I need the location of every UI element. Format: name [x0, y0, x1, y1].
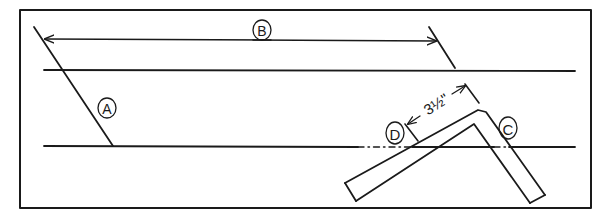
label-b: B	[253, 20, 271, 40]
dimension-3-5-arrow-right	[452, 86, 465, 94]
angle-iron-right-end	[530, 195, 545, 203]
svg-text:C: C	[503, 121, 514, 138]
dimension-b-arrow-left	[45, 39, 271, 40]
dimension-3-5-arrow-left	[408, 116, 420, 124]
lower-parallel-line-left	[44, 146, 358, 147]
slanted-line-b-end	[429, 27, 455, 68]
dimension-3-5-label: 3½"	[420, 90, 451, 119]
label-d: D	[386, 122, 404, 144]
dimension-b-arrow	[253, 40, 436, 41]
svg-text:B: B	[257, 23, 266, 39]
upper-parallel-line	[44, 70, 575, 71]
slanted-line-a	[34, 27, 113, 146]
diagram-canvas: 3½" A B C D	[0, 0, 607, 223]
svg-text:A: A	[102, 101, 112, 117]
label-a: A	[98, 98, 116, 118]
svg-text:D: D	[390, 126, 401, 143]
dimension-top-extension	[465, 84, 479, 103]
label-c: C	[499, 117, 517, 139]
angle-iron-left-end	[345, 183, 356, 201]
dimension-d-extension	[405, 124, 418, 141]
